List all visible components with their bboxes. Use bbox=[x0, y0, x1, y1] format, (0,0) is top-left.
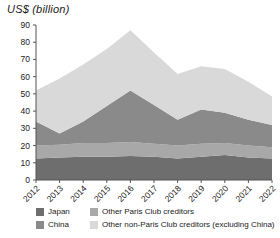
legend-item-japan: Japan bbox=[36, 207, 90, 216]
x-tick-label: 2020 bbox=[210, 183, 231, 204]
area-series-1 bbox=[36, 142, 272, 158]
y-tick-label: 50 bbox=[21, 89, 31, 99]
chart-container: US$ (billion) 0102030405060708090 201220… bbox=[0, 0, 280, 238]
chart-legend: Japan Other Paris Club creditors China O… bbox=[0, 205, 280, 231]
x-tick-label: 2012 bbox=[21, 183, 42, 204]
y-tick-label: 60 bbox=[21, 72, 31, 82]
x-tick-label: 2018 bbox=[163, 183, 184, 204]
legend-row-2: China Other non-Paris Club creditors (ex… bbox=[0, 218, 280, 231]
legend-label-china: China bbox=[48, 220, 69, 229]
legend-label-japan: Japan bbox=[48, 207, 70, 216]
legend-swatch-other-paris-club bbox=[90, 208, 98, 216]
x-tick-label: 2017 bbox=[139, 183, 160, 204]
y-tick-label: 40 bbox=[21, 106, 31, 116]
x-tick-label: 2021 bbox=[233, 183, 254, 204]
x-tick-label: 2015 bbox=[92, 183, 113, 204]
y-tick-label: 20 bbox=[21, 141, 31, 151]
y-tick-label: 90 bbox=[21, 20, 31, 30]
x-tick-label: 2019 bbox=[186, 183, 207, 204]
legend-swatch-other-non-paris-club bbox=[90, 221, 98, 229]
x-tick-label: 2016 bbox=[115, 183, 136, 204]
area-series-0 bbox=[36, 155, 272, 180]
y-tick-label: 0 bbox=[25, 175, 30, 185]
x-tick-label: 2014 bbox=[68, 183, 89, 204]
stacked-area-chart: 0102030405060708090 20122013201420152016… bbox=[0, 0, 280, 205]
y-tick-label: 80 bbox=[21, 37, 31, 47]
legend-label-other-paris-club: Other Paris Club creditors bbox=[102, 207, 194, 216]
legend-swatch-japan bbox=[36, 208, 44, 216]
legend-item-china: China bbox=[36, 220, 90, 229]
legend-row-1: Japan Other Paris Club creditors bbox=[0, 205, 280, 218]
legend-item-other-paris-club: Other Paris Club creditors bbox=[90, 207, 194, 216]
x-tick-labels: 2012201320142015201620172018201920202021… bbox=[21, 180, 278, 204]
legend-swatch-china bbox=[36, 221, 44, 229]
y-tick-label: 70 bbox=[21, 54, 31, 64]
plot-areas bbox=[36, 30, 272, 180]
y-tick-label: 30 bbox=[21, 123, 31, 133]
y-tick-label: 10 bbox=[21, 158, 31, 168]
x-tick-label: 2013 bbox=[45, 183, 66, 204]
legend-label-other-non-paris-club: Other non-Paris Club creditors (excludin… bbox=[102, 220, 275, 229]
legend-item-other-non-paris-club: Other non-Paris Club creditors (excludin… bbox=[90, 220, 275, 229]
y-tick-labels: 0102030405060708090 bbox=[21, 20, 36, 185]
x-tick-label: 2022 bbox=[257, 183, 278, 204]
